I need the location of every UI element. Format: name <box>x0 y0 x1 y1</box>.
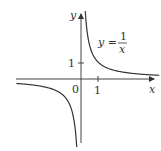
x-tick-label: 1 <box>94 84 101 97</box>
x-axis-label: x <box>149 83 156 96</box>
y-tick-label: 1 <box>68 57 75 70</box>
y-axis-label: y <box>69 9 77 22</box>
curve-negative-branch <box>16 83 76 147</box>
equation-lhs: y = <box>97 36 117 49</box>
equation-denominator: x <box>119 43 126 56</box>
origin-label: 0 <box>72 83 79 96</box>
plot-svg: x y 0 1 1 y = 1 x <box>0 0 161 151</box>
graph-figure: x y 0 1 1 y = 1 x <box>0 0 161 151</box>
equation-numerator: 1 <box>120 30 127 43</box>
